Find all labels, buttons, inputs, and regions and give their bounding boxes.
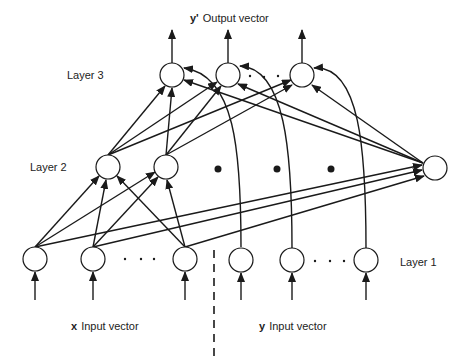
layer3-node [160,63,184,87]
layer1-node [229,248,253,272]
layer1-node [173,247,197,271]
layer3-node [290,63,314,87]
layer1-node [354,248,378,272]
layer3-label: Layer 3 [67,69,104,81]
layer2-label: Layer 2 [30,161,67,173]
x-symbol: x [71,320,77,332]
network-diagram [0,0,467,358]
layer1-label: Layer 1 [400,256,437,268]
layer2-node [96,155,120,179]
output-vector-label: y'Output vector [190,12,269,24]
layer2-node [423,156,447,180]
output-text: Output vector [203,12,269,24]
y-symbol: y [259,320,265,332]
layer1-node [81,247,105,271]
layer1-node [280,248,304,272]
x-text: Input vector [81,320,138,332]
x-input-label: xInput vector [71,320,139,332]
layer3-node [216,63,240,87]
layer2-node [154,155,178,179]
y-input-label: yInput vector [259,320,327,332]
y-text: Input vector [269,320,326,332]
layer1-node [23,247,47,271]
output-symbol: y' [190,12,199,24]
